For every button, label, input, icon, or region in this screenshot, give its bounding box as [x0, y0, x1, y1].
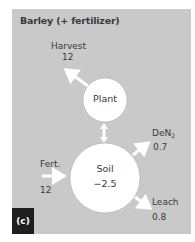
- denitrification-value: 0.7: [153, 142, 167, 152]
- denitrification-arrow: [133, 143, 148, 155]
- soil-node-label: Soil: [85, 163, 125, 174]
- plant-soil-arrowhead-down: [100, 137, 108, 143]
- harvest-label: Harvest: [51, 41, 86, 51]
- fertilizer-label: Fert.: [40, 159, 60, 169]
- plant-soil-arrowhead-up: [100, 123, 108, 129]
- leach-value: 0.8: [152, 212, 166, 222]
- leach-arrow: [135, 197, 150, 208]
- plant-node-label: Plant: [85, 93, 125, 104]
- soil-node-value: −2.5: [85, 178, 125, 189]
- leach-label: Leach: [152, 197, 179, 207]
- harvest-value: 12: [62, 52, 73, 62]
- fertilizer-value: 12: [40, 185, 51, 195]
- denitrification-label-subscript: 2: [171, 132, 175, 139]
- denitrification-label: DeN2: [152, 128, 175, 139]
- harvest-arrow: [66, 70, 88, 86]
- denitrification-label-text: DeN: [152, 128, 171, 138]
